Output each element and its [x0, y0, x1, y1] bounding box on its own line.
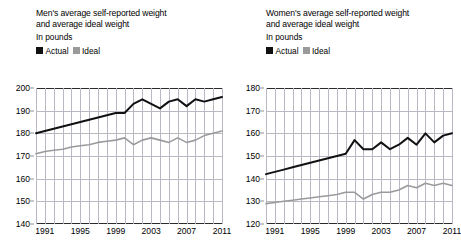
panel-women-titles: Women's average self-reported weight and… — [266, 8, 456, 56]
y-tick-label-men-200: 200 — [16, 83, 30, 93]
x-tick-label-men-1995: 1995 — [71, 226, 90, 236]
y-tick-label-women-120: 120 — [246, 219, 260, 229]
square-swatch-ideal-icon — [73, 47, 80, 54]
series-line-men-actual — [36, 97, 222, 133]
x-tick-label-women-1999: 1999 — [336, 226, 355, 236]
y-tick-label-women-170: 170 — [246, 106, 260, 116]
x-tick-label-men-2007: 2007 — [177, 226, 196, 236]
legend-label-ideal: Ideal — [312, 46, 330, 56]
y-tick-label-men-190: 190 — [16, 106, 30, 116]
y-tick-label-women-140: 140 — [246, 174, 260, 184]
y-tick-label-men-180: 180 — [16, 128, 30, 138]
x-tick-label-men-1991: 1991 — [35, 226, 54, 236]
y-tick-label-men-150: 150 — [16, 196, 30, 206]
x-tick-label-women-2003: 2003 — [372, 226, 391, 236]
y-tick-label-women-180: 180 — [246, 83, 260, 93]
square-swatch-actual-icon — [36, 47, 43, 54]
plot-area-men — [36, 88, 222, 224]
x-tick-label-women-2011: 2011 — [443, 226, 461, 236]
y-tick-mark — [29, 201, 34, 202]
panel-men-legend: Actual Ideal — [36, 46, 226, 56]
panel-women: Women's average self-reported weight and… — [230, 0, 459, 251]
panel-men: Men's average self-reported weight and a… — [0, 0, 229, 251]
y-tick-label-women-160: 160 — [246, 128, 260, 138]
y-tick-mark — [259, 133, 264, 134]
panel-men-title-line2: and average ideal weight — [36, 19, 226, 30]
panel-women-title-line1: Women's average self-reported weight — [266, 8, 456, 19]
panel-men-title-line1: Men's average self-reported weight — [36, 8, 226, 19]
y-tick-label-men-140: 140 — [16, 219, 30, 229]
y-tick-mark — [259, 88, 264, 89]
y-tick-label-men-160: 160 — [16, 174, 30, 184]
x-tick-label-women-2007: 2007 — [407, 226, 426, 236]
y-tick-mark — [29, 110, 34, 111]
series-line-women-ideal — [266, 183, 452, 203]
y-tick-mark — [259, 201, 264, 202]
square-swatch-actual-icon — [266, 47, 273, 54]
x-axis-women: 199119951999200320072011 — [266, 226, 452, 240]
panel-women-title-line2: and average ideal weight — [266, 19, 456, 30]
y-tick-mark — [259, 156, 264, 157]
legend-item-actual: Actual — [36, 46, 69, 56]
y-tick-mark — [29, 133, 34, 134]
panel-men-units: In pounds — [36, 32, 226, 43]
legend-label-actual: Actual — [46, 46, 69, 56]
x-tick-label-men-2003: 2003 — [142, 226, 161, 236]
legend-label-actual: Actual — [276, 46, 299, 56]
y-axis-men: 140150160170180190200 — [0, 88, 33, 224]
series-layer-men — [36, 88, 222, 224]
legend-item-actual: Actual — [266, 46, 299, 56]
y-tick-mark — [259, 224, 264, 225]
y-tick-label-women-130: 130 — [246, 196, 260, 206]
panel-women-legend: Actual Ideal — [266, 46, 456, 56]
y-tick-mark — [259, 110, 264, 111]
legend-item-ideal: Ideal — [73, 46, 101, 56]
square-swatch-ideal-icon — [303, 47, 310, 54]
panel-men-titles: Men's average self-reported weight and a… — [36, 8, 226, 56]
x-tick-label-women-1995: 1995 — [301, 226, 320, 236]
y-tick-mark — [259, 178, 264, 179]
gridline-vertical — [452, 88, 453, 224]
y-tick-label-women-150: 150 — [246, 151, 260, 161]
series-line-women-actual — [266, 133, 452, 174]
y-tick-label-men-170: 170 — [16, 151, 30, 161]
legend-label-ideal: Ideal — [82, 46, 100, 56]
x-tick-label-men-1999: 1999 — [106, 226, 125, 236]
plot-area-women — [266, 88, 452, 224]
series-layer-women — [266, 88, 452, 224]
y-tick-mark — [29, 178, 34, 179]
panel-women-units: In pounds — [266, 32, 456, 43]
y-tick-mark — [29, 156, 34, 157]
x-tick-label-women-1991: 1991 — [265, 226, 284, 236]
x-tick-label-men-2011: 2011 — [213, 226, 231, 236]
y-tick-mark — [29, 224, 34, 225]
x-axis-men: 199119951999200320072011 — [36, 226, 222, 240]
y-axis-women: 120130140150160170180 — [230, 88, 263, 224]
legend-item-ideal: Ideal — [303, 46, 331, 56]
series-line-men-ideal — [36, 131, 222, 154]
y-tick-mark — [29, 88, 34, 89]
gridline-vertical — [222, 88, 223, 224]
